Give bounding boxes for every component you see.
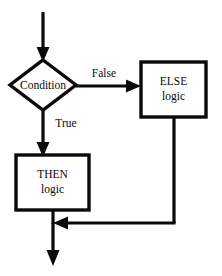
edge-label-false: False: [92, 67, 116, 79]
edge-exit-arrowhead: [47, 250, 60, 266]
then-logic-label-line1: THEN: [37, 168, 68, 180]
flowchart-svg: Condition False ELSE logic True THEN log…: [0, 0, 222, 276]
node-else-logic[interactable]: ELSE logic: [141, 62, 206, 117]
else-logic-label-line2: logic: [162, 90, 185, 103]
edge-true-branch: [37, 110, 50, 157]
edge-false-arrowhead: [126, 80, 141, 93]
then-logic-label-line2: logic: [41, 183, 64, 196]
node-then-logic[interactable]: THEN logic: [16, 155, 89, 210]
edge-else-return-arrowhead: [53, 217, 68, 230]
node-condition[interactable]: Condition: [10, 60, 76, 110]
flowchart-canvas: Condition False ELSE logic True THEN log…: [0, 0, 222, 276]
else-logic-label-line1: ELSE: [160, 75, 187, 87]
edge-false-branch: [76, 80, 141, 93]
edge-exit-arrow: [47, 223, 60, 266]
edge-entry-arrow: [37, 12, 50, 62]
condition-label: Condition: [20, 79, 66, 91]
edge-label-true: True: [55, 117, 76, 129]
